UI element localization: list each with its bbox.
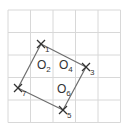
- x-markers: 1357: [14, 40, 95, 120]
- o-label-subscript: 2: [46, 65, 51, 74]
- o-label-subscript: 6: [66, 89, 71, 98]
- x-marker-5: 5: [59, 106, 72, 120]
- o-label-4: O4: [59, 58, 73, 74]
- o-label-subscript: 4: [68, 65, 73, 74]
- o-label-6: O6: [57, 82, 71, 98]
- x-marker-subscript: 3: [90, 68, 95, 77]
- grid-diagram: 1357 O2O4O6: [0, 0, 127, 130]
- x-marker-7: 7: [14, 84, 27, 98]
- x-marker-subscript: 5: [67, 111, 72, 120]
- x-marker-subscript: 7: [22, 89, 27, 98]
- o-label-2: O2: [37, 58, 51, 74]
- x-marker-subscript: 1: [45, 45, 50, 54]
